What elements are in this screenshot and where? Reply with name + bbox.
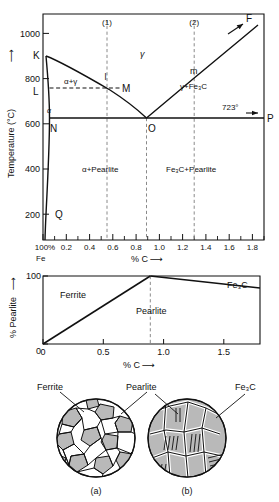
fe3c-leader — [216, 394, 245, 418]
microstructure-a: (a) — [50, 398, 140, 496]
label-alpha-region: α — [47, 107, 52, 114]
pearlite-y-ticks — [43, 276, 48, 344]
acm-line — [147, 25, 259, 118]
x-tick-0.6: 0.6 — [107, 243, 119, 252]
x-axis-ticks — [43, 234, 264, 240]
label-K: K — [33, 50, 40, 61]
label-L: L — [33, 86, 39, 97]
x-tick-1.6: 1.6 — [224, 243, 236, 252]
pearlite-x-tick-labels: 0 0.5 1.0 1.5 % C ⟶ — [40, 347, 230, 370]
y-tick-600: 600 — [25, 119, 40, 129]
x-tick-1.8: 1.8 — [247, 243, 259, 252]
x-tick-0: 100% — [35, 243, 55, 252]
label-N: N — [50, 123, 57, 134]
y-tick-200: 200 — [25, 210, 40, 220]
pearlite-y-tick-100: 100 — [26, 271, 41, 281]
pearlite-label-fe3c: Fe₃C — [227, 280, 248, 290]
a3-line — [46, 56, 147, 118]
pearlite-x-tick-1.5: 1.5 — [218, 347, 231, 357]
pearlite-label-ferrite: Ferrite — [60, 290, 86, 300]
callout-ferrite: Ferrite — [37, 382, 63, 392]
x-tick-0.2: 0.2 — [61, 243, 73, 252]
y-axis-title: Temperature (°C) — [6, 109, 16, 178]
eutectoid-temperature-label: 723° — [222, 103, 239, 112]
y-tick-800: 800 — [25, 74, 40, 84]
pearlite-label-pearlite: Pearlite — [136, 306, 167, 316]
callout-pearlite: Pearlite — [126, 382, 157, 392]
x-axis-title: % C — [131, 254, 149, 264]
y-axis-title-arrow: ⟶ — [6, 49, 16, 62]
label-l: l — [105, 72, 107, 82]
x-tick-0.8: 0.8 — [131, 243, 143, 252]
pearlite-y-tick-labels: 100 0 — [26, 271, 41, 356]
x-axis-title-arrow: ⟶ — [150, 254, 163, 264]
y-tick-400: 400 — [25, 164, 40, 174]
pearlite-x-tick-0.5: 0.5 — [97, 347, 110, 357]
y-tick-1000: 1000 — [20, 29, 40, 39]
microstructure-panel: (a) — [0, 382, 279, 502]
caption-a: (a) — [91, 486, 102, 496]
label-Q: Q — [55, 209, 63, 220]
callout-labels: Ferrite Pearlite Fe₃C — [37, 382, 256, 392]
composition-line-2-label: (2) — [189, 18, 199, 27]
microstructure-b: (b) — [148, 399, 226, 496]
pearlite-y-title-arrow: ⟶ — [8, 277, 18, 290]
iron-carbon-phase-diagram: 1000 800 600 400 200 Temperature (°C) ⟶ — [0, 0, 279, 270]
composition-line-labels: (1) (2) — [102, 18, 199, 27]
x-tick-1.4: 1.4 — [200, 243, 212, 252]
x-origin-sublabel: Fe — [36, 254, 46, 263]
label-M: M — [122, 83, 130, 94]
figure-root: 1000 800 600 400 200 Temperature (°C) ⟶ — [0, 0, 279, 502]
pearlite-x-title: % C — [123, 360, 141, 370]
pearlite-y-title-group: % Pearlite ⟶ — [8, 277, 18, 338]
y-axis-title-group: Temperature (°C) ⟶ — [6, 49, 16, 178]
region-alpha-pearlite: α+Pearlite — [82, 165, 119, 174]
label-P: P — [267, 113, 274, 124]
alpha-solvus-line — [45, 56, 50, 240]
region-gamma-fe3c: γ+Fe₃C — [180, 82, 207, 91]
hypoeutectoid-line — [43, 276, 150, 344]
x-tick-1.2: 1.2 — [177, 243, 189, 252]
x-tick-1.0: 1.0 — [154, 243, 166, 252]
label-O: O — [148, 123, 156, 134]
eutectoid-arrow — [246, 111, 258, 115]
composition-line-1-label: (1) — [102, 18, 112, 27]
callout-fe3c: Fe₃C — [235, 382, 256, 392]
pearlite-y-title: % Pearlite — [8, 297, 18, 338]
percent-pearlite-chart: 100 0 % Pearlite ⟶ 0 0.5 1.0 1.5 % C ⟶ — [0, 266, 279, 376]
label-F: F — [246, 13, 252, 24]
f-arrow — [228, 24, 243, 34]
diagram-labels: K L N Q M l O P m F γ α α+γ γ+Fe₃C α+Pea… — [33, 13, 274, 220]
region-alpha-gamma: α+γ — [64, 77, 77, 86]
label-gamma-region: γ — [140, 49, 145, 59]
label-m: m — [190, 66, 198, 76]
caption-b: (b) — [182, 486, 193, 496]
pearlite-x-tick-0: 0 — [40, 347, 45, 357]
x-axis-tick-labels: 100% 0.2 0.4 0.6 0.8 1.0 1.2 1.4 1.6 1.8… — [35, 243, 259, 264]
pearlite-region-labels: Ferrite Pearlite Fe₃C — [60, 280, 248, 316]
pearlite-x-tick-1.0: 1.0 — [157, 347, 170, 357]
pearlite-x-title-arrow: ⟶ — [142, 360, 155, 370]
pearlite-x-ticks — [43, 339, 224, 344]
region-fe3c-pearlite: Fe₃C+Pearlite — [166, 165, 217, 174]
pearlite-leader-a — [121, 392, 147, 414]
x-tick-0.4: 0.4 — [84, 243, 96, 252]
